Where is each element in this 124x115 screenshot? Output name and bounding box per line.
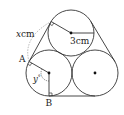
belt-right-tangent [91, 22, 115, 62]
x-cm-label: xcm [16, 29, 35, 39]
belt-left-tangent [29, 22, 51, 62]
radius-label: 3cm [70, 36, 90, 46]
geometry-diagram: 3cm xcm A B y° [0, 0, 124, 115]
center-dot-top [70, 32, 73, 35]
radius-to-a [29, 62, 49, 74]
angle-y-degree: ° [38, 73, 41, 80]
radius-top-to-tangent [51, 22, 71, 34]
point-b-label: B [46, 98, 53, 108]
center-dot-bottom-left [48, 72, 51, 75]
angle-y-label: y° [32, 73, 41, 84]
center-dot-bottom-right [94, 72, 97, 75]
x-unit: cm [21, 29, 35, 39]
point-a-label: A [18, 54, 26, 64]
